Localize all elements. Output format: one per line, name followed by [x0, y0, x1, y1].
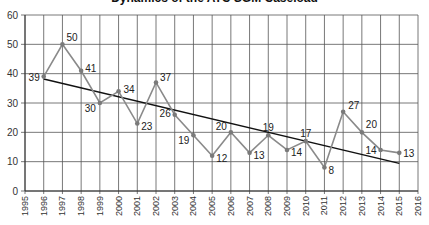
data-label: 13	[403, 148, 415, 159]
y-tick-label: 60	[7, 10, 19, 21]
data-point	[191, 133, 196, 138]
data-label: 37	[160, 72, 172, 83]
x-tick-label: 2013	[357, 196, 367, 216]
data-label: 19	[178, 135, 190, 146]
x-tick-label: 2001	[132, 196, 142, 216]
x-tick-label: 2014	[376, 196, 386, 216]
data-point	[41, 74, 46, 79]
y-tick-label: 30	[7, 98, 19, 109]
x-tick-label: 1997	[57, 196, 67, 216]
data-point	[172, 112, 177, 117]
x-tick-label: 1998	[76, 196, 86, 216]
data-point	[247, 151, 252, 156]
data-point	[98, 101, 103, 106]
data-label: 17	[300, 128, 312, 139]
data-label: 19	[263, 122, 275, 133]
x-tick-label: 2006	[226, 196, 236, 216]
x-tick-label: 2008	[263, 196, 273, 216]
x-tick-label: 2000	[114, 196, 124, 216]
x-tick-label: 2003	[170, 196, 180, 216]
y-tick-label: 40	[7, 68, 19, 79]
x-tick-label: 1999	[95, 196, 105, 216]
data-point	[397, 151, 402, 156]
x-tick-label: 2002	[151, 196, 161, 216]
x-tick-label: 2012	[338, 196, 348, 216]
data-point	[210, 154, 215, 159]
data-label: 23	[141, 121, 153, 132]
data-label: 20	[366, 119, 378, 130]
data-line	[44, 44, 400, 167]
data-label: 41	[85, 63, 97, 74]
x-tick-label: 2007	[245, 196, 255, 216]
data-label: 39	[29, 72, 41, 83]
data-point	[360, 130, 365, 135]
data-point	[135, 121, 140, 126]
x-tick-label: 2011	[319, 196, 329, 215]
y-tick-label: 10	[7, 156, 19, 167]
line-chart: 1995199619971998199920002001200220032004…	[0, 0, 429, 225]
data-point	[303, 139, 308, 144]
data-point	[229, 130, 234, 135]
data-point	[322, 165, 327, 170]
x-tick-label: 1995	[20, 196, 30, 216]
data-point	[341, 110, 346, 115]
x-tick-label: 1996	[39, 196, 49, 216]
data-label: 50	[66, 32, 78, 43]
data-label: 30	[85, 103, 97, 114]
data-label: 13	[254, 150, 266, 161]
y-tick-label: 50	[7, 39, 19, 50]
data-label: 8	[328, 165, 334, 176]
y-tick-label: 20	[7, 127, 19, 138]
data-point	[266, 133, 271, 138]
data-point	[60, 42, 65, 47]
data-point	[116, 89, 121, 94]
x-tick-label: 2016	[413, 196, 423, 216]
data-label: 34	[124, 84, 136, 95]
x-tick-label: 2009	[282, 196, 292, 216]
y-tick-label: 0	[12, 186, 18, 197]
x-tick-label: 2015	[394, 196, 404, 216]
data-label: 20	[216, 121, 228, 132]
data-label: 12	[216, 153, 228, 164]
data-label: 27	[348, 100, 360, 111]
data-label: 14	[291, 147, 303, 158]
data-point	[154, 80, 159, 85]
x-tick-label: 2010	[301, 196, 311, 216]
data-point	[378, 148, 383, 153]
data-point	[285, 148, 290, 153]
data-label: 26	[160, 108, 172, 119]
x-tick-label: 2005	[207, 196, 217, 216]
data-point	[79, 68, 84, 73]
x-tick-label: 2004	[188, 196, 198, 216]
data-label: 14	[365, 145, 377, 156]
